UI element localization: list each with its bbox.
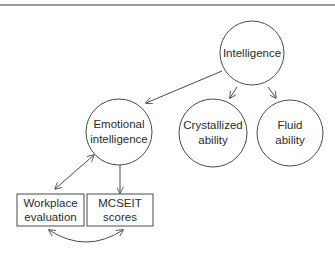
- diagram-canvas: Intelligence Emotional intelligence Crys…: [0, 0, 335, 255]
- workplace-evaluation-label-line2: evaluation: [24, 211, 76, 223]
- arrow-intelligence-to-emotional: [146, 71, 222, 103]
- node-intelligence: Intelligence: [220, 21, 284, 85]
- emotional-intelligence-label-line1: Emotional: [93, 118, 144, 130]
- fluid-ability-label-line1: Fluid: [278, 119, 303, 131]
- emotional-intelligence-circle: [86, 99, 152, 165]
- mcseit-scores-label-line2: scores: [103, 211, 137, 223]
- crystallized-ability-circle: [179, 99, 247, 167]
- fluid-ability-label-line2: ability: [275, 134, 305, 146]
- node-mcseit-scores: MCSEIT scores: [87, 194, 153, 226]
- workplace-evaluation-label-line1: Workplace: [23, 197, 77, 209]
- intelligence-label: Intelligence: [223, 47, 281, 59]
- node-crystallized-ability: Crystallized ability: [179, 99, 247, 167]
- fluid-ability-circle: [257, 100, 323, 166]
- arrow-intelligence-to-crystallized: [230, 87, 237, 98]
- crystallized-ability-label-line2: ability: [198, 134, 228, 146]
- node-emotional-intelligence: Emotional intelligence: [86, 99, 152, 165]
- mcseit-scores-label-line1: MCSEIT: [98, 197, 141, 209]
- crystallized-ability-label-line1: Crystallized: [183, 119, 242, 131]
- node-workplace-evaluation: Workplace evaluation: [17, 194, 84, 226]
- arrow-emotional-workplace-bidirectional: [55, 155, 94, 189]
- emotional-intelligence-label-line2: intelligence: [90, 133, 148, 145]
- arrow-workplace-mcseit-curved-bidirectional: [49, 230, 123, 242]
- arrow-intelligence-to-fluid: [268, 87, 276, 98]
- node-fluid-ability: Fluid ability: [257, 100, 323, 166]
